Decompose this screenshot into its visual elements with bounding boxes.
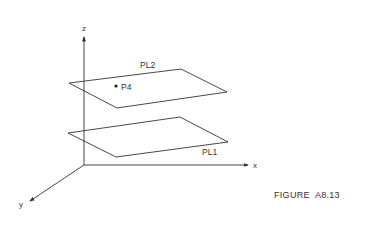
point-p4-label: P4 (121, 82, 132, 92)
y-axis-label: y (19, 200, 23, 209)
figure-caption: FIGURE A8.13 (274, 190, 340, 200)
plane-pl2 (69, 69, 227, 108)
plane-pl1-label: PL1 (202, 147, 217, 157)
x-axis-label: x (253, 161, 257, 170)
plane-pl2-label: PL2 (140, 60, 155, 70)
z-axis-label: z (82, 24, 86, 33)
y-axis (30, 165, 84, 201)
point-p4 (114, 84, 117, 87)
